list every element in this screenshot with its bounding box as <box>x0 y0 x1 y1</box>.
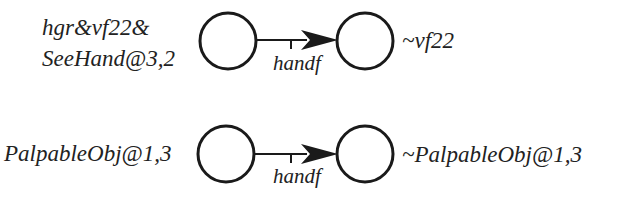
target-state-node <box>337 13 393 69</box>
precondition-label-line-1: hgr&vf22& <box>42 15 149 40</box>
postcondition-label: ~PalpableObj@1,3 <box>402 142 582 167</box>
source-state-node <box>200 13 256 69</box>
transition-row-1: hgr&vf22& SeeHand@3,2 handf ~vf22 <box>42 13 454 75</box>
transition-row-2: PalpableObj@1,3 handf ~PalpableObj@1,3 <box>3 126 582 188</box>
transition-diagram: hgr&vf22& SeeHand@3,2 handf ~vf22 Palpab… <box>0 0 617 198</box>
precondition-label: PalpableObj@1,3 <box>3 141 171 166</box>
target-state-node <box>337 126 393 182</box>
edge-label: handf <box>273 51 324 75</box>
precondition-label-line-2: SeeHand@3,2 <box>42 46 175 71</box>
source-state-node <box>198 126 254 182</box>
edge-label: handf <box>273 164 324 188</box>
postcondition-label: ~vf22 <box>402 28 454 53</box>
